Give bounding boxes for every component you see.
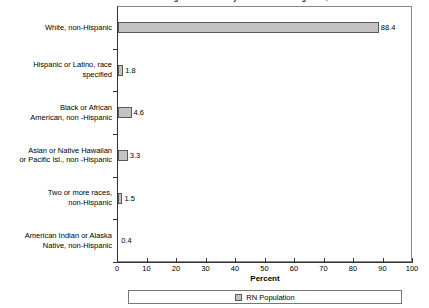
- x-axis-tick-label: 40: [223, 264, 247, 273]
- category-label: White, non-Hispanic: [0, 23, 112, 33]
- bar-0: [118, 22, 379, 33]
- x-axis-tick: [117, 258, 118, 263]
- category-label: Asian or Native Hawaiianor Pacific Isl.,…: [0, 146, 112, 165]
- chart-title: Registered Nurses by Racial/Ethnic Backg…: [104, 0, 429, 2]
- chart-legend: RN Population: [128, 290, 402, 304]
- x-axis-tick-label: 10: [135, 264, 159, 273]
- x-axis-tick-label: 50: [253, 264, 277, 273]
- y-axis-tick: [113, 262, 117, 263]
- bar-value-label: 88.4: [381, 22, 396, 33]
- category-row: Hispanic or Latino, racespecified: [0, 49, 429, 92]
- x-axis-tick-label: 0: [105, 264, 129, 273]
- y-axis-tick: [113, 91, 117, 92]
- x-axis-tick: [383, 258, 384, 263]
- x-axis-tick: [265, 258, 266, 263]
- category-row: Black or AfricanAmerican, non -Hispanic: [0, 91, 429, 134]
- bar-value-label: 0.4: [121, 235, 131, 246]
- bar-1: [118, 65, 123, 76]
- bar-4: [118, 193, 122, 204]
- x-axis-tick: [324, 258, 325, 263]
- bar-value-label: 4.6: [134, 107, 144, 118]
- bar-2: [118, 107, 132, 118]
- bar-value-label: 3.3: [130, 150, 140, 161]
- x-axis-tick: [147, 258, 148, 263]
- legend-swatch-rn-population: [235, 294, 242, 301]
- category-label: Two or more races,non-Hispanic: [0, 188, 112, 207]
- x-axis-tick-label: 100: [400, 264, 424, 273]
- x-axis-tick-label: 70: [312, 264, 336, 273]
- x-axis-tick: [353, 258, 354, 263]
- category-row: Asian or Native Hawaiianor Pacific Isl.,…: [0, 134, 429, 177]
- category-row: American Indian or AlaskaNative, non-His…: [0, 219, 429, 262]
- x-axis-tick-label: 80: [341, 264, 365, 273]
- category-row: Two or more races,non-Hispanic: [0, 177, 429, 220]
- bar-chart-container: Registered Nurses by Racial/Ethnic Backg…: [0, 0, 429, 308]
- bar-value-label: 1.5: [124, 193, 134, 204]
- x-axis-tick: [176, 258, 177, 263]
- y-axis-tick: [113, 134, 117, 135]
- category-label: Hispanic or Latino, racespecified: [0, 60, 112, 79]
- x-axis-title: Percent: [117, 274, 413, 283]
- bar-3: [118, 150, 128, 161]
- legend-label-rn-population: RN Population: [246, 293, 294, 302]
- x-axis-tick: [235, 258, 236, 263]
- x-axis-tick: [294, 258, 295, 263]
- x-axis-tick: [206, 258, 207, 263]
- category-label: Black or AfricanAmerican, non -Hispanic: [0, 103, 112, 122]
- y-axis-tick: [113, 49, 117, 50]
- y-axis-tick: [113, 177, 117, 178]
- category-label: American Indian or AlaskaNative, non-His…: [0, 231, 112, 250]
- x-axis-tick-label: 60: [282, 264, 306, 273]
- bar-value-label: 1.8: [125, 65, 135, 76]
- x-axis-tick-label: 20: [164, 264, 188, 273]
- y-axis-tick: [113, 219, 117, 220]
- x-axis-tick-label: 90: [371, 264, 395, 273]
- x-axis-tick-label: 30: [194, 264, 218, 273]
- x-axis-tick: [412, 258, 413, 263]
